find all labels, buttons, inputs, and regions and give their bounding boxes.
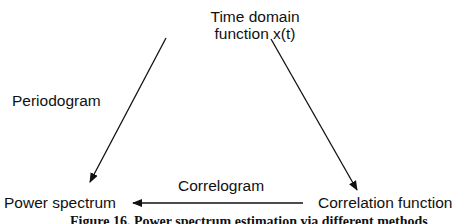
edge-label-correlogram: Correlogram — [178, 177, 264, 194]
diagram-canvas: Time domain function x(t) Periodogram Co… — [0, 0, 470, 224]
figure-caption: Figure 16. Power spectrum estimation via… — [70, 214, 428, 224]
node-correlation-function: Correlation function — [318, 194, 452, 211]
edge-label-periodogram: Periodogram — [12, 92, 101, 109]
arrow-time-to-correlation — [271, 39, 357, 190]
node-time-domain-line1: Time domain — [40, 8, 470, 25]
arrow-time-to-power — [90, 38, 166, 182]
node-time-domain-line2: function x(t) — [40, 25, 470, 42]
node-power-spectrum: Power spectrum — [4, 194, 116, 211]
node-time-domain-function: Time domain function x(t) — [0, 8, 470, 42]
